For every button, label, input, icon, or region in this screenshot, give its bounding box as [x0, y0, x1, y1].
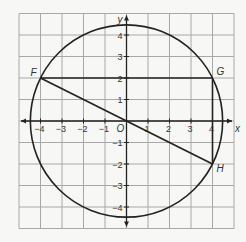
x-tick-label: −4	[34, 124, 44, 134]
y-axis-arrow-up-icon	[124, 16, 129, 21]
x-tick-label: 3	[187, 124, 192, 134]
origin-label: O	[117, 123, 125, 134]
y-axis-label: y	[117, 14, 124, 25]
point-label-F: F	[31, 67, 38, 78]
x-tick-label: −2	[77, 124, 87, 134]
point-label-H: H	[217, 163, 225, 174]
coordinate-diagram: −4−3−2−112344321−1−2−3−4xyO FGH	[0, 0, 246, 242]
x-tick-label: 2	[166, 124, 171, 134]
tick-labels: −4−3−2−112344321−1−2−3−4xyO	[34, 14, 241, 213]
y-axis-arrow-down-icon	[124, 222, 129, 227]
y-tick-label: 4	[117, 31, 122, 41]
plot-svg: −4−3−2−112344321−1−2−3−4xyO FGH	[0, 0, 246, 242]
x-tick-label: −1	[99, 124, 109, 134]
point-label-G: G	[217, 66, 225, 77]
point-labels: FGH	[31, 66, 225, 174]
y-tick-label: −3	[112, 181, 122, 191]
y-tick-label: −4	[112, 203, 122, 213]
x-axis-arrow-left-icon	[21, 119, 26, 124]
x-tick-label: −3	[56, 124, 66, 134]
y-tick-label: −2	[112, 160, 122, 170]
y-tick-label: 1	[117, 95, 122, 105]
x-axis-label: x	[234, 123, 241, 134]
x-axis-arrow-right-icon	[227, 119, 232, 124]
y-tick-label: 3	[117, 52, 122, 62]
y-tick-label: −1	[112, 138, 122, 148]
